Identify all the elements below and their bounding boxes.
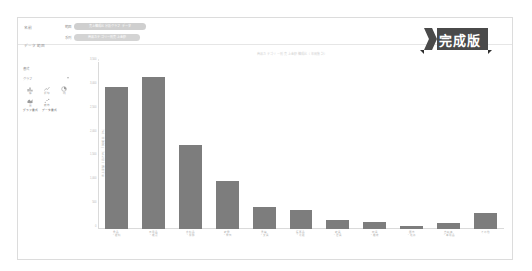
chart-x-tick-label: 日用品・雑貨 (149, 229, 158, 237)
tool-caption-scatter: 散布 (44, 105, 50, 108)
chart-bar[interactable] (179, 145, 202, 229)
chart-bar[interactable] (290, 210, 313, 229)
chart-bar[interactable] (253, 207, 276, 229)
completed-version-ribbon: 完成版 (424, 28, 488, 50)
name-label: 名前 (24, 25, 32, 30)
tool-caption-area: 面 (29, 105, 32, 108)
chart-bar[interactable] (216, 181, 239, 229)
tool-icon-pie[interactable]: 円 (57, 86, 71, 96)
chart-bar-column[interactable]: 食品・飲料 (98, 62, 135, 229)
chart-y-tick-label: 3,500 (90, 58, 98, 61)
chart-y-tick-label: 0 (95, 225, 98, 228)
chart-bar-column[interactable]: 日用品・雑貨 (135, 62, 172, 229)
chart-bar[interactable] (105, 87, 128, 229)
chart-bar-column[interactable]: 家電・電気 (209, 62, 246, 229)
chart-type-select[interactable]: グラフ (23, 75, 69, 81)
chart-bar-column[interactable]: 衣料品・服飾 (172, 62, 209, 229)
tool-caption-pie: 円 (63, 93, 66, 96)
field-label-range: 範囲 (65, 24, 71, 29)
chart-bar-column[interactable]: 玩具・趣味 (356, 62, 393, 229)
chart-y-tick-label: 2,500 (90, 105, 98, 108)
chart-x-tick-label: その他 (481, 229, 490, 234)
chart-x-tick-label: 食品・飲料 (112, 229, 121, 237)
application-window: 名前 データ範囲 範囲 売上構成比分析グラフ データ 系列 商品カテゴリー別売上… (17, 17, 513, 260)
range-input[interactable]: 売上構成比分析グラフ データ (74, 23, 146, 30)
chart-bar-column[interactable]: 園芸・花卉 (393, 62, 430, 229)
field-row-series: 系列 商品カテゴリー別売上金額 (65, 34, 140, 41)
chart-y-tick-label: 3,000 (90, 81, 98, 84)
chart-y-tick-label: 2,000 (90, 129, 98, 132)
format-panel-footer: グラフ書式 データ書式 (23, 110, 75, 113)
chart-x-tick-label: 書籍・文具 (260, 229, 269, 237)
chart-format-button[interactable]: グラフ書式 (23, 110, 38, 113)
data-range-label: データ範囲 (24, 43, 45, 48)
tool-icon-area[interactable]: 面 (23, 98, 37, 108)
tool-icon-bar[interactable]: 棒 (23, 86, 37, 96)
chart-bars: 食品・飲料日用品・雑貨衣料品・服飾家電・電気書籍・文具医薬品・化粧家具・寝具玩具… (98, 62, 504, 229)
chart-scatter-icon (44, 98, 50, 104)
chart-area-icon (27, 98, 33, 104)
data-format-button[interactable]: データ書式 (42, 110, 57, 113)
chart-y-tick-label: 1,000 (90, 177, 98, 180)
chart-bar-column[interactable]: 家具・寝具 (319, 62, 356, 229)
chart-bar[interactable] (474, 213, 497, 229)
chart-bar[interactable] (363, 222, 386, 229)
chart-bar-column[interactable]: 書籍・文具 (246, 62, 283, 229)
tool-caption-line: 折線 (44, 93, 50, 96)
chart-plot-area: 食品・飲料日用品・雑貨衣料品・服飾家電・電気書籍・文具医薬品・化粧家具・寝具玩具… (98, 62, 504, 229)
ribbon-tail-left (420, 50, 424, 54)
format-panel-heading: 書式 (23, 66, 75, 71)
chart-x-tick-label: 園芸・花卉 (407, 229, 416, 237)
tool-icon-line[interactable]: 折線 (40, 86, 54, 96)
chart-type-icon-grid: 棒 折線 円 面 (23, 86, 71, 107)
chart-x-tick-label: 衣料品・服飾 (186, 229, 195, 237)
series-input[interactable]: 商品カテゴリー別売上金額 (74, 34, 140, 41)
field-row-range: 範囲 売上構成比分析グラフ データ (65, 23, 146, 30)
chart-type-value: グラフ (23, 76, 32, 81)
chart-title: 商品カテゴリー別 売上金額構成比（年間集計） (257, 52, 327, 56)
chart-bar-column[interactable]: 自転車・車用品 (430, 62, 467, 229)
chart-x-tick-label: 自転車・車用品 (443, 229, 455, 237)
chart-x-tick-label: 玩具・趣味 (370, 229, 379, 237)
tool-icon-scatter[interactable]: 散布 (40, 98, 54, 108)
tool-caption-bar: 棒 (29, 93, 32, 96)
ribbon-tail-right (488, 50, 492, 54)
field-label-series: 系列 (65, 35, 71, 40)
ribbon-label: 完成版 (437, 28, 488, 50)
chart-x-tick-label: 家電・電気 (223, 229, 232, 237)
chart-bar-column[interactable]: その他 (467, 62, 504, 229)
chart-y-tick-label: 1,500 (90, 153, 98, 156)
chart-y-tick-label: 500 (92, 201, 98, 204)
chart-bar[interactable] (142, 77, 165, 229)
chart-bar[interactable] (326, 220, 349, 229)
format-tool-panel: 書式 グラフ 棒 折線 (23, 66, 75, 113)
chart-container: 商品カテゴリー別 売上金額構成比（年間集計） 売上金額（百万円） / 構成比（％… (76, 48, 508, 255)
chart-x-tick-label: 医薬品・化粧 (296, 229, 305, 237)
chevron-down-icon (67, 77, 69, 79)
chart-x-tick-label: 家具・寝具 (333, 229, 342, 237)
ribbon-arrow-icon (424, 28, 437, 50)
chart-bar-column[interactable]: 医薬品・化粧 (283, 62, 320, 229)
